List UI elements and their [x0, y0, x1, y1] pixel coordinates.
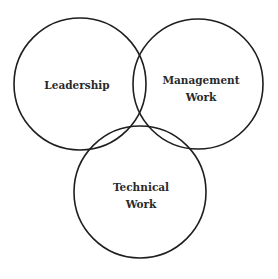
management-work-label-line1: Management — [162, 74, 239, 86]
technical-work-label-line2: Work — [125, 198, 157, 210]
leadership-label: Leadership — [44, 79, 109, 91]
venn-diagram: Leadership Management Work Technical Wor… — [0, 0, 278, 279]
management-work-label-line2: Work — [185, 91, 217, 103]
technical-work-label-line1: Technical — [113, 181, 169, 193]
